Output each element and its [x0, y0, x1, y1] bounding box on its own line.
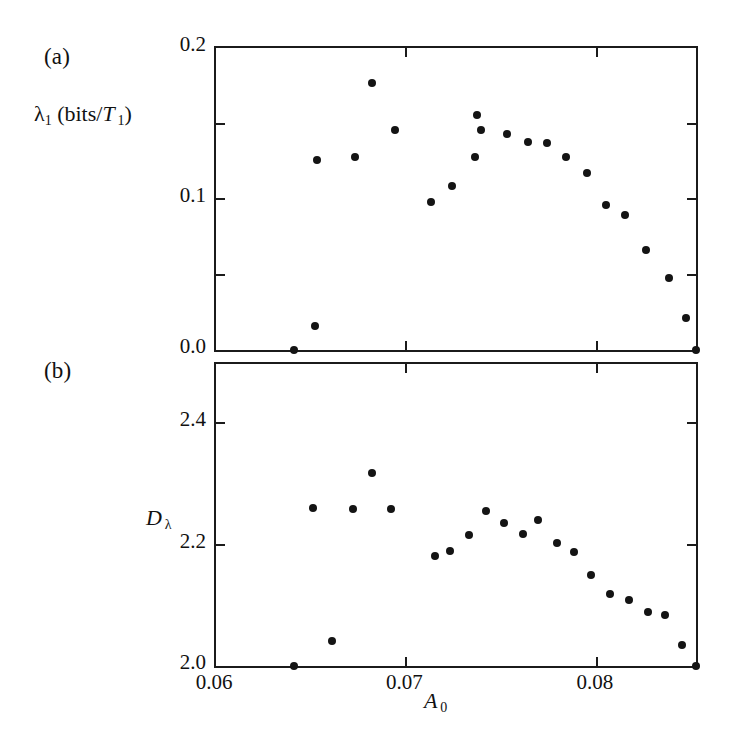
data-point — [602, 201, 610, 209]
x-axis-tick — [596, 341, 598, 350]
lambda-subscript: 1 — [45, 113, 52, 128]
y-axis-minor-tick — [216, 123, 225, 125]
data-point — [368, 469, 376, 477]
data-point — [349, 505, 357, 513]
data-point — [678, 641, 686, 649]
scatter-figure: (a) λ1 (bits/T 1) (b) D λ A 0 0.00.10.22… — [0, 0, 737, 749]
data-point — [543, 139, 551, 147]
data-point — [553, 539, 561, 547]
data-point — [692, 346, 700, 354]
data-point — [524, 138, 532, 146]
data-point — [391, 126, 399, 134]
x-axis-tick — [596, 48, 598, 57]
data-point — [682, 314, 690, 322]
y-axis-tick — [216, 544, 225, 546]
y-axis-minor-tick — [687, 274, 696, 276]
y-axis-tick-label: 2.2 — [136, 529, 206, 554]
data-point — [309, 504, 317, 512]
data-point — [661, 611, 669, 619]
y-axis-tick — [687, 198, 696, 200]
x-axis-tick-label: 0.06 — [164, 670, 264, 695]
data-point — [351, 153, 359, 161]
y-axis-minor-tick — [687, 123, 696, 125]
data-point — [500, 519, 508, 527]
data-point — [519, 530, 527, 538]
y-axis-tick — [687, 422, 696, 424]
data-point — [290, 346, 298, 354]
y-axis-tick-label: 0.0 — [136, 334, 206, 359]
data-point — [587, 571, 595, 579]
amplitude-subscript: 0 — [437, 700, 447, 715]
data-point — [427, 198, 435, 206]
y-axis-tick — [216, 422, 225, 424]
y-axis-tick — [687, 544, 696, 546]
data-point — [368, 79, 376, 87]
x-axis-tick — [596, 364, 598, 373]
panel-b-tag: (b) — [44, 358, 71, 384]
y-axis-tick-label: 2.4 — [136, 407, 206, 432]
y-axis-tick-label: 0.2 — [136, 32, 206, 57]
x-axis-tick — [596, 657, 598, 666]
data-point — [387, 505, 395, 513]
dimension-symbol: D — [146, 505, 162, 530]
lambda-symbol: λ — [34, 101, 45, 126]
data-point — [471, 153, 479, 161]
panel-b-plot-area — [214, 362, 698, 668]
data-point — [482, 507, 490, 515]
data-point — [311, 322, 319, 330]
data-point — [570, 548, 578, 556]
panel-a-tag: (a) — [44, 44, 70, 70]
data-point — [431, 552, 439, 560]
y-axis-minor-tick — [216, 274, 225, 276]
panel-a-plot-area — [214, 46, 698, 352]
data-point — [313, 156, 321, 164]
panel-a-y-axis-label: λ1 (bits/T 1) — [34, 101, 132, 129]
period-subscript: 1 — [115, 113, 125, 128]
x-axis-tick-label: 0.07 — [354, 670, 454, 695]
data-point — [477, 126, 485, 134]
data-point — [642, 246, 650, 254]
units-open: (bits/ — [52, 101, 103, 126]
y-axis-tick — [216, 198, 225, 200]
data-point — [290, 662, 298, 670]
x-axis-tick-label: 0.08 — [545, 670, 645, 695]
x-axis-tick — [405, 48, 407, 57]
data-point — [465, 531, 473, 539]
data-point — [583, 169, 591, 177]
data-point — [446, 547, 454, 555]
y-axis-tick-label: 0.1 — [136, 183, 206, 208]
x-axis-tick — [405, 341, 407, 350]
period-symbol: T — [102, 101, 114, 126]
data-point — [606, 590, 614, 598]
x-axis-tick — [405, 364, 407, 373]
data-point — [621, 211, 629, 219]
data-point — [562, 153, 570, 161]
data-point — [692, 662, 700, 670]
units-close: ) — [124, 101, 131, 126]
data-point — [448, 182, 456, 190]
data-point — [665, 274, 673, 282]
x-axis-tick — [405, 657, 407, 666]
data-point — [473, 111, 481, 119]
data-point — [644, 608, 652, 616]
data-point — [503, 130, 511, 138]
data-point — [625, 596, 633, 604]
data-point — [328, 637, 336, 645]
data-point — [534, 516, 542, 524]
